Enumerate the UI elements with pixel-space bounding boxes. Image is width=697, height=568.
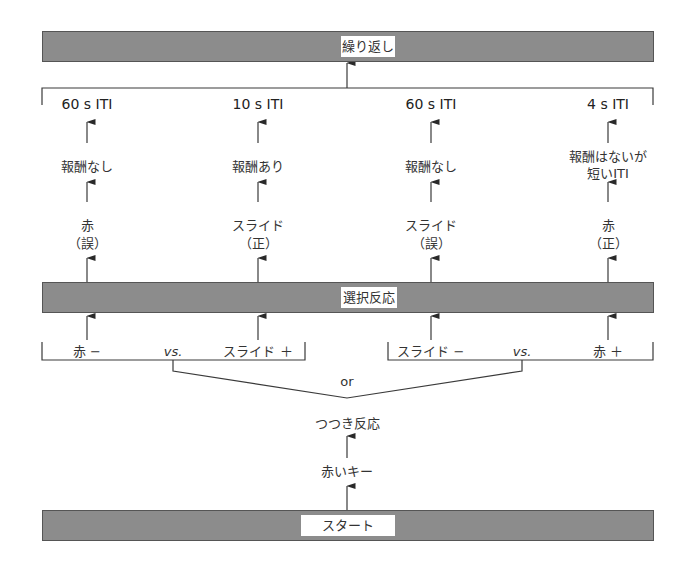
iti-label-4: 4 s ITI	[587, 96, 629, 113]
iti-label-3: 60 s ITI	[406, 96, 457, 113]
iti-label-2: 10 s ITI	[233, 96, 284, 113]
choice-label-1a: 赤	[81, 217, 94, 234]
reward-label-3: 報酬なし	[405, 158, 457, 175]
choice-label-3a: スライド	[405, 217, 457, 234]
condition-right-vs: vs.	[513, 343, 532, 360]
start-bar: スタート	[42, 510, 654, 541]
iti-label-1: 60 s ITI	[62, 96, 113, 113]
red-key-label: 赤いキー	[321, 463, 373, 480]
choice-label-1b: （誤）	[68, 235, 107, 252]
choice-label-2b: （正）	[239, 235, 278, 252]
reward-label-2: 報酬あり	[232, 158, 284, 175]
reward-label-1: 報酬なし	[61, 158, 113, 175]
choice-response-bar: 選択反応	[42, 282, 654, 313]
reward-label-4a: 報酬はないが	[569, 148, 647, 165]
choice-label-4b: （正）	[589, 235, 628, 252]
choice-label-4a: 赤	[602, 217, 615, 234]
condition-left-vs: vs.	[164, 343, 183, 360]
start-label: スタート	[301, 515, 395, 536]
condition-right-a: スライド −	[397, 343, 464, 360]
reward-label-4b: 短いITI	[587, 165, 629, 182]
peck-response-label: つつき反応	[315, 415, 380, 432]
choice-label-2a: スライド	[232, 217, 284, 234]
choice-label-3b: （誤）	[412, 235, 451, 252]
condition-right-b: 赤 ＋	[593, 343, 623, 360]
condition-left-b: スライド ＋	[223, 343, 292, 360]
or-label: or	[340, 373, 353, 390]
choice-response-label: 選択反応	[341, 287, 397, 308]
condition-left-a: 赤 −	[73, 343, 101, 360]
repeat-bar: 繰り返し	[42, 31, 654, 62]
repeat-label: 繰り返し	[341, 36, 395, 57]
